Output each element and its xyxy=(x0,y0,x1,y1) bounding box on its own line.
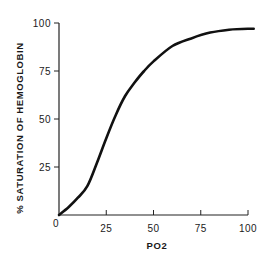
x-tick-label: 100 xyxy=(239,223,257,234)
saturation-curve xyxy=(59,29,254,215)
x-tick-label: 25 xyxy=(100,223,112,234)
y-axis-label: % SATURATION OF HEMOGLOBIN xyxy=(14,42,25,213)
x-axis-label: PO2 xyxy=(147,240,168,251)
x-tick-label: 50 xyxy=(147,223,159,234)
x-axis: 0255075100 xyxy=(53,210,257,234)
x-tick-label: 0 xyxy=(53,218,59,229)
oxygen-dissociation-chart: 255075100 0255075100 PO2 % SATURATION OF… xyxy=(0,0,273,256)
y-tick-label: 50 xyxy=(39,114,51,125)
y-tick-label: 100 xyxy=(33,18,51,29)
y-tick-label: 75 xyxy=(39,66,51,77)
y-tick-label: 25 xyxy=(39,162,51,173)
y-axis: 255075100 xyxy=(33,18,59,216)
x-tick-label: 75 xyxy=(195,223,207,234)
